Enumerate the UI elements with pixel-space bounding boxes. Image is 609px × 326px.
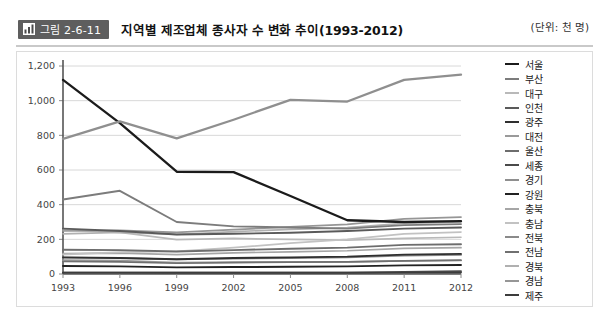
y-tick-label: 400 — [37, 199, 55, 210]
legend-swatch-icon — [505, 150, 519, 152]
x-tick-label: 2011 — [392, 282, 416, 293]
legend-swatch-icon — [505, 251, 519, 253]
legend-label: 제주 — [525, 288, 543, 303]
x-tick-label: 2002 — [221, 282, 245, 293]
legend-label: 광주 — [525, 114, 543, 129]
series-line — [63, 80, 461, 222]
legend-label: 서울 — [525, 57, 543, 72]
legend-label: 인천 — [525, 100, 543, 115]
series-line — [63, 265, 461, 267]
series-line — [63, 232, 461, 255]
legend-swatch-icon — [505, 78, 519, 80]
legend-label: 충남 — [525, 216, 543, 231]
legend-item[interactable]: 인천 — [505, 100, 571, 114]
y-tick-label: 1,200 — [28, 60, 55, 71]
legend-item[interactable]: 부산 — [505, 71, 571, 85]
legend-item[interactable]: 대전 — [505, 129, 571, 143]
legend-label: 울산 — [525, 143, 543, 158]
y-tick-label: 200 — [37, 234, 55, 245]
legend-swatch-icon — [505, 222, 519, 224]
legend-label: 충북 — [525, 201, 543, 216]
legend-label: 전북 — [525, 230, 543, 245]
series-line — [63, 254, 461, 259]
legend-swatch-icon — [505, 63, 519, 65]
legend-label: 경남 — [525, 273, 543, 288]
legend-item[interactable]: 충북 — [505, 201, 571, 215]
legend-item[interactable]: 대구 — [505, 86, 571, 100]
legend-label: 대전 — [525, 129, 543, 144]
legend-swatch-icon — [505, 179, 519, 181]
legend-item[interactable]: 울산 — [505, 144, 571, 158]
x-tick-label: 1996 — [108, 282, 132, 293]
legend-swatch-icon — [505, 135, 519, 137]
y-tick-label: 800 — [37, 130, 55, 141]
legend-swatch-icon — [505, 193, 519, 195]
legend-label: 경북 — [525, 259, 543, 274]
legend-swatch-icon — [505, 280, 519, 282]
header-divider — [16, 45, 593, 47]
legend-label: 경기 — [525, 172, 543, 187]
y-tick-label: 1,000 — [28, 95, 55, 106]
figure-number-badge: 그림 2-6-11 — [18, 20, 109, 39]
legend-item[interactable]: 경기 — [505, 173, 571, 187]
x-tick-label: 2008 — [335, 282, 359, 293]
legend-item[interactable]: 경북 — [505, 259, 571, 273]
legend-item[interactable]: 충남 — [505, 216, 571, 230]
legend-item[interactable]: 전남 — [505, 245, 571, 259]
legend-label: 부산 — [525, 71, 543, 86]
legend-swatch-icon — [505, 236, 519, 238]
legend-swatch-icon — [505, 208, 519, 210]
legend-swatch-icon — [505, 121, 519, 123]
y-tick-label: 600 — [37, 164, 55, 175]
legend-label: 강원 — [525, 187, 543, 202]
unit-note: (단위: 천 명) — [531, 19, 589, 34]
legend-label: 대구 — [525, 86, 543, 101]
bar-chart-icon — [23, 23, 35, 35]
chart-legend: 서울부산대구인천광주대전울산세종경기강원충북충남전북전남경북경남제주 — [505, 57, 571, 302]
y-tick-label: 0 — [49, 268, 55, 279]
x-tick-label: 1993 — [51, 282, 75, 293]
figure-number-label: 그림 2-6-11 — [40, 21, 101, 37]
series-line — [63, 75, 461, 139]
page-title: 지역별 제조업체 종사자 수 변화 추이(1993-2012) — [121, 20, 403, 39]
x-tick-label: 2005 — [278, 282, 302, 293]
x-tick-label: 2012 — [449, 282, 473, 293]
legend-label: 전남 — [525, 244, 543, 259]
legend-item[interactable]: 전북 — [505, 230, 571, 244]
legend-item[interactable]: 제주 — [505, 288, 571, 302]
figure-panel: 그림 2-6-11 지역별 제조업체 종사자 수 변화 추이(1993-2012… — [0, 0, 609, 326]
legend-swatch-icon — [505, 294, 519, 296]
legend-item[interactable]: 경남 — [505, 274, 571, 288]
legend-swatch-icon — [505, 107, 519, 109]
legend-swatch-icon — [505, 92, 519, 94]
figure-header: 그림 2-6-11 지역별 제조업체 종사자 수 변화 추이(1993-2012… — [0, 12, 609, 46]
legend-swatch-icon — [505, 164, 519, 166]
legend-item[interactable]: 서울 — [505, 57, 571, 71]
x-tick-label: 1999 — [165, 282, 189, 293]
legend-label: 세종 — [525, 158, 543, 173]
legend-swatch-icon — [505, 265, 519, 267]
legend-item[interactable]: 강원 — [505, 187, 571, 201]
legend-item[interactable]: 광주 — [505, 115, 571, 129]
legend-item[interactable]: 세종 — [505, 158, 571, 172]
